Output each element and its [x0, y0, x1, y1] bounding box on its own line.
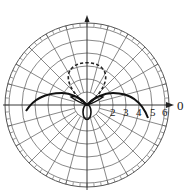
tick-mark: [59, 179, 60, 182]
tick-mark: [120, 31, 121, 34]
tick-mark: [137, 42, 139, 45]
tick-mark: [158, 138, 161, 139]
tick-mark: [126, 34, 128, 37]
grid-spoke: [96, 47, 145, 96]
tick-mark: [164, 91, 167, 92]
tick-mark: [143, 47, 145, 49]
grid-spoke: [46, 34, 81, 94]
tick-mark: [46, 34, 48, 37]
tick-mark: [151, 58, 154, 60]
tick-mark: [24, 52, 27, 54]
tick-mark: [40, 169, 42, 172]
tick-mark: [164, 119, 167, 120]
polar-plot: 2 3 4 5 6 0: [0, 0, 188, 192]
grid-spoke: [94, 116, 129, 176]
tick-mark: [16, 64, 19, 66]
tick-mark: [52, 31, 53, 34]
tick-mark: [151, 150, 154, 152]
tick-mark: [143, 161, 145, 163]
tick-mark: [40, 38, 42, 41]
tick-mark: [101, 24, 102, 27]
radial-label-2: 2: [110, 106, 116, 118]
tick-mark: [52, 176, 53, 179]
tick-mark: [46, 173, 48, 176]
tick-mark: [137, 165, 139, 168]
tick-mark: [59, 28, 60, 31]
tick-mark: [29, 161, 31, 163]
tick-mark: [16, 144, 19, 146]
tick-mark: [147, 52, 150, 54]
tick-mark: [126, 173, 128, 176]
solid-pattern-inner-loop-left: [71, 96, 87, 105]
tick-mark: [155, 64, 158, 66]
tick-mark: [6, 119, 9, 120]
tick-mark: [114, 179, 115, 182]
tick-mark: [158, 70, 161, 71]
radial-label-4: 4: [136, 106, 142, 118]
tick-mark: [114, 28, 115, 31]
tick-mark: [73, 24, 74, 27]
radial-label-6: 6: [162, 106, 168, 118]
tick-mark: [155, 144, 158, 146]
grid-spoke: [29, 47, 78, 96]
tick-mark: [34, 42, 36, 45]
tick-mark: [34, 165, 36, 168]
tick-mark: [13, 70, 16, 71]
tick-mark: [101, 182, 102, 185]
tick-mark: [13, 138, 16, 139]
radial-label-5: 5: [150, 106, 156, 118]
axis-arrow-up-icon: [85, 15, 90, 22]
tick-mark: [161, 77, 164, 78]
radial-label-3: 3: [123, 106, 129, 118]
tick-mark: [10, 77, 13, 78]
grid-spoke: [16, 112, 76, 147]
tick-mark: [20, 58, 23, 60]
solid-pattern-inner-loop-right: [87, 96, 103, 105]
grid-spoke: [96, 114, 145, 163]
tick-mark: [120, 176, 121, 179]
grid-spoke: [46, 116, 81, 176]
tick-mark: [20, 150, 23, 152]
tick-mark: [10, 132, 13, 133]
tick-mark: [73, 182, 74, 185]
grid-spoke: [94, 34, 129, 94]
tick-mark: [147, 155, 150, 157]
tick-mark: [132, 38, 134, 41]
tick-mark: [6, 91, 9, 92]
tick-mark: [132, 169, 134, 172]
angle-zero-label: 0: [177, 98, 184, 113]
tick-mark: [161, 132, 164, 133]
grid-spoke: [29, 114, 78, 163]
tick-mark: [29, 47, 31, 49]
tick-mark: [24, 155, 27, 157]
